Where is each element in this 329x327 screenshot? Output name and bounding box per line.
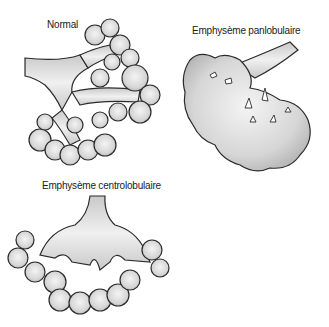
normal-lung-drawing xyxy=(25,19,160,165)
illustration-canvas xyxy=(0,0,329,327)
centrilobular-dilated-bronchiole xyxy=(40,196,150,270)
panlobular-enlarged-airspace xyxy=(183,54,310,170)
centrilobular-emphysema-drawing xyxy=(8,196,169,314)
panlobular-emphysema-drawing xyxy=(183,42,310,171)
